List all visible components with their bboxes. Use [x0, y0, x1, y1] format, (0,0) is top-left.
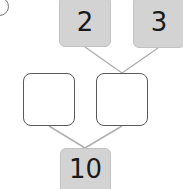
top-right-number-box: 3: [133, 0, 183, 48]
middle-right-answer-box[interactable]: [96, 73, 148, 126]
middle-left-answer-box[interactable]: [23, 73, 75, 126]
bottom-number-box: 10: [60, 148, 111, 189]
top-right-number: 3: [151, 7, 168, 37]
bottom-number: 10: [69, 154, 102, 184]
top-left-number: 2: [77, 7, 94, 37]
top-left-number-box: 2: [59, 0, 111, 47]
